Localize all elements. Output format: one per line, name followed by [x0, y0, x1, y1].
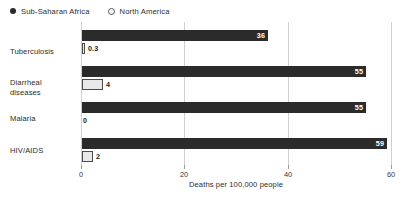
category-label-line-1: Tuberculosis — [10, 47, 76, 57]
bar-value-malaria-sub-saharan-africa: 55 — [82, 102, 363, 113]
x-axis-title: Deaths per 100,000 people — [81, 180, 391, 189]
plot-area: 0 20 40 60 36 0.3 55 4 55 0 59 2 — [81, 22, 391, 165]
category-label-line-1: HIV/AIDS — [10, 146, 76, 156]
tick-mark-0 — [81, 165, 82, 169]
x-tick-label-40: 40 — [284, 170, 292, 179]
category-label-line-1: Diarrheal — [10, 78, 76, 88]
category-label-hiv-aids: HIV/AIDS — [10, 146, 76, 156]
bar-tuberculosis-north-america[interactable] — [82, 43, 85, 54]
category-label-line-1: Malaria — [10, 114, 76, 124]
tick-mark-20 — [184, 165, 185, 169]
filled-circle-icon — [10, 8, 16, 14]
legend-item-sub-saharan-africa: Sub-Saharan Africa — [10, 7, 90, 16]
category-label-diarrheal-diseases: Diarrheal diseases — [10, 78, 76, 97]
bar-value-malaria-north-america: 0 — [83, 115, 87, 126]
category-label-line-2: diseases — [10, 88, 76, 98]
legend-label-sub-saharan-africa: Sub-Saharan Africa — [21, 7, 90, 16]
bar-value-tuberculosis-sub-saharan-africa: 36 — [82, 30, 265, 41]
chart-legend: Sub-Saharan Africa North America — [10, 4, 170, 18]
legend-label-north-america: North America — [120, 7, 170, 16]
gridline-60 — [391, 22, 392, 165]
open-circle-icon — [108, 8, 115, 15]
bar-value-hiv-aids-north-america: 2 — [96, 151, 100, 162]
bar-hiv-aids-north-america[interactable] — [82, 151, 93, 162]
x-tick-label-20: 20 — [180, 170, 188, 179]
bar-value-tuberculosis-north-america: 0.3 — [88, 43, 98, 54]
x-tick-label-0: 0 — [79, 170, 83, 179]
x-tick-label-60: 60 — [387, 170, 395, 179]
tick-mark-60 — [391, 165, 392, 169]
category-label-tuberculosis: Tuberculosis — [10, 47, 76, 57]
bar-value-diarrheal-diseases-north-america: 4 — [106, 79, 110, 90]
bar-value-diarrheal-diseases-sub-saharan-africa: 55 — [82, 66, 363, 77]
category-label-malaria: Malaria — [10, 114, 76, 124]
bar-value-hiv-aids-sub-saharan-africa: 59 — [82, 138, 384, 149]
bar-diarrheal-diseases-north-america[interactable] — [82, 79, 103, 90]
tick-mark-40 — [288, 165, 289, 169]
legend-item-north-america: North America — [108, 7, 170, 16]
